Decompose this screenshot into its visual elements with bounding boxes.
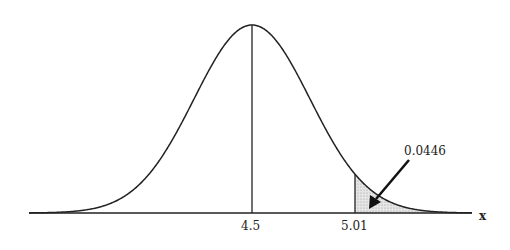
- critical-tick-label: 5.01: [341, 219, 368, 233]
- x-axis-label: x: [479, 209, 486, 223]
- mean-tick-label: 4.5: [241, 219, 260, 233]
- shaded-tail-region: [355, 174, 472, 213]
- tail-area-label: 0.0446: [404, 144, 446, 158]
- normal-curve: [29, 25, 472, 213]
- normal-curve-chart: [0, 0, 510, 250]
- annotation-arrow: [376, 160, 409, 199]
